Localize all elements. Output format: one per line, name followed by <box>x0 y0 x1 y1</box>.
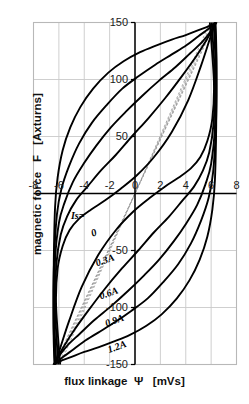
x-tick-label: 4 <box>183 179 189 191</box>
y-tick-label: 150 <box>110 16 128 28</box>
x-tick-label: -6 <box>54 179 64 191</box>
y-tick-label: 100 <box>110 73 128 85</box>
hysteresis-plot: -8-6-4-202468-150-100-5050100150 Is=00.3… <box>0 0 249 404</box>
chart-figure: -8-6-4-202468-150-100-5050100150 Is=00.3… <box>0 0 249 404</box>
x-tick-label: 8 <box>233 179 239 191</box>
series-annotation-06A: 0.6A <box>98 284 120 301</box>
y-tick-label: -150 <box>106 358 128 370</box>
x-tick-label: 6 <box>208 179 214 191</box>
x-tick-label: -8 <box>29 179 39 191</box>
x-tick-label: 2 <box>157 179 163 191</box>
x-tick-label: 0 <box>132 179 138 191</box>
y-tick-label: -100 <box>106 301 128 313</box>
axis-layer <box>34 23 237 365</box>
series-annotation-03A: 0.3A <box>94 251 116 268</box>
x-tick-label: -4 <box>79 179 89 191</box>
y-tick-label: 50 <box>116 130 128 142</box>
series-annotation-0: 0 <box>89 226 98 238</box>
series-annotation-Is: Is= <box>70 210 85 221</box>
y-tick-label: -50 <box>112 244 128 256</box>
series-annotation-09A: 0.9A <box>103 312 125 329</box>
x-tick-label: -2 <box>105 179 115 191</box>
